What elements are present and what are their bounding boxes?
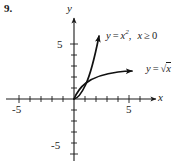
y-axis <box>70 18 78 161</box>
parabola-domain-var: x <box>137 30 142 41</box>
parabola-label-comma: , <box>129 30 132 41</box>
curve-label-parabola: y=x2,x≥0 <box>106 29 157 41</box>
x-tick-label-neg5: -5 <box>12 104 21 115</box>
parabola-label-y: y <box>106 30 111 41</box>
x-axis-label: x <box>158 92 163 103</box>
coordinate-plane <box>0 0 184 166</box>
x-tick-label-pos5: 5 <box>126 104 132 115</box>
y-axis-label: y <box>67 3 72 14</box>
problem-number: 9. <box>4 3 12 14</box>
curve-sqrt <box>74 71 132 99</box>
sqrt-label-y: y <box>146 63 151 74</box>
y-tick-label-pos5: 5 <box>57 39 63 50</box>
parabola-domain-relation: ≥ <box>144 30 150 41</box>
parabola-domain-value: 0 <box>152 30 157 41</box>
parabola-label-equals: = <box>113 30 119 41</box>
curve-label-sqrt: y=√x <box>146 64 171 75</box>
x-axis <box>6 95 156 103</box>
y-tick-label-neg5: -5 <box>51 140 60 151</box>
figure-container: 9. y x -5 5 5 -5 y=x2,x≥0 y=√x <box>0 0 184 166</box>
curve-parabola <box>74 36 99 99</box>
sqrt-label-radicand: x <box>166 62 171 74</box>
sqrt-label-equals: = <box>153 63 159 74</box>
